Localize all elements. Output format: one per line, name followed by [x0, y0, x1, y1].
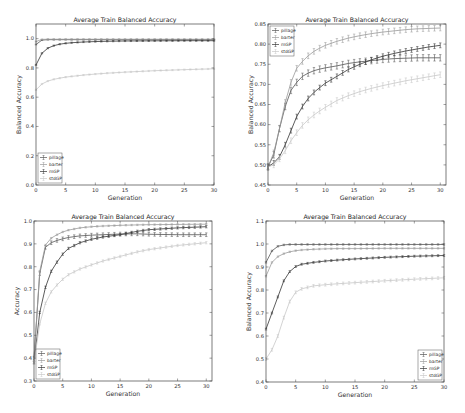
- x-tick-label: 5: [295, 187, 298, 193]
- x-tick-label: 0: [266, 187, 269, 193]
- legend-label-stdGP: stdGP: [47, 372, 60, 377]
- legend-label-mGP: mGP: [49, 169, 60, 174]
- legend-label-barter: barter: [429, 359, 443, 364]
- legend-label-pillage: pillage: [47, 351, 62, 356]
- x-axis-label: Generation: [106, 390, 141, 397]
- x-tick-label: 25: [174, 383, 181, 389]
- y-tick-label: 0.4: [24, 355, 33, 361]
- legend-label-stdGP: stdGP: [429, 373, 442, 378]
- x-tick-label: 20: [380, 187, 387, 193]
- x-tick-label: 10: [88, 383, 95, 389]
- y-tick-label: 1.0: [24, 218, 32, 224]
- series-pillage: [265, 244, 445, 263]
- y-axis-label: Balanced Accuracy: [245, 272, 253, 331]
- y-tick-label: 0.3: [24, 378, 32, 384]
- plot-frame: [36, 24, 214, 185]
- series-stdGP: [265, 276, 445, 360]
- y-tick-label: 0.0: [26, 182, 34, 188]
- legend-label-mGP: mGP: [281, 42, 292, 47]
- x-tick-label: 0: [32, 383, 35, 389]
- x-tick-label: 0: [264, 384, 267, 390]
- x-tick-label: 10: [92, 187, 99, 193]
- legend-label-barter: barter: [281, 35, 295, 40]
- series-barter: [33, 224, 208, 359]
- x-tick-label: 15: [352, 384, 359, 390]
- y-tick-label: 0.6: [26, 94, 34, 100]
- y-tick-label: 0.60: [254, 121, 266, 127]
- y-tick-label: 0.4: [256, 379, 265, 385]
- y-tick-label: 0.50: [254, 162, 266, 168]
- x-tick-label: 15: [117, 383, 124, 389]
- x-tick-label: 30: [441, 384, 448, 390]
- x-tick-label: 10: [322, 187, 329, 193]
- x-axis-label: Generation: [340, 194, 375, 201]
- y-tick-label: 0.7: [256, 310, 264, 316]
- x-tick-label: 25: [408, 187, 415, 193]
- chart-bottom-left: 0510152025300.30.40.50.60.70.80.91.0Aver…: [13, 213, 212, 398]
- y-tick-label: 0.5: [256, 356, 264, 362]
- x-tick-label: 30: [437, 187, 444, 193]
- legend-label-stdGP: stdGP: [49, 176, 62, 181]
- x-tick-label: 20: [381, 384, 388, 390]
- chart-top-left: 0510152025300.00.20.40.60.81.0Average Tr…: [15, 16, 217, 202]
- plot-frame: [268, 24, 446, 185]
- series-pillage: [33, 232, 208, 360]
- series-barter: [265, 248, 445, 277]
- chart-bottom-right: 0510152025300.40.50.60.70.80.91.01.1Aver…: [245, 213, 447, 399]
- y-tick-label: 1.0: [256, 241, 264, 247]
- legend-label-barter: barter: [49, 162, 63, 167]
- x-tick-label: 15: [351, 187, 358, 193]
- y-tick-label: 0.65: [254, 101, 266, 107]
- x-axis-label: Generation: [108, 194, 143, 201]
- series-mGP: [35, 40, 215, 65]
- y-tick-label: 0.75: [254, 61, 266, 67]
- y-tick-label: 0.70: [254, 81, 266, 87]
- x-tick-label: 10: [322, 384, 329, 390]
- series-mGP: [33, 226, 208, 364]
- y-tick-label: 0.5: [24, 332, 32, 338]
- x-tick-label: 20: [151, 187, 158, 193]
- legend: pillagebartermGPstdGP: [270, 26, 296, 56]
- y-axis-label: Accuracy: [13, 287, 21, 316]
- series-pillage: [267, 55, 442, 171]
- y-tick-label: 0.2: [26, 153, 34, 159]
- y-tick-label: 0.4: [26, 123, 35, 129]
- chart-top-right: 0510152025300.450.500.550.600.650.700.75…: [247, 16, 446, 202]
- x-tick-label: 30: [211, 187, 218, 193]
- x-tick-label: 5: [61, 383, 64, 389]
- y-tick-label: 0.85: [254, 21, 266, 27]
- x-tick-label: 20: [146, 383, 153, 389]
- legend: pillagebartermGPstdGP: [38, 153, 64, 183]
- y-tick-label: 1.0: [26, 35, 34, 41]
- x-tick-label: 25: [411, 384, 418, 390]
- y-tick-label: 0.9: [256, 264, 264, 270]
- legend: pillagebartermGPstdGP: [36, 349, 62, 379]
- x-tick-label: 5: [64, 187, 67, 193]
- x-tick-label: 25: [181, 187, 188, 193]
- legend-label-stdGP: stdGP: [281, 49, 294, 54]
- y-axis-label: Balanced Accuracy: [247, 75, 255, 134]
- chart-title: Average Train Balanced Accuracy: [305, 16, 408, 24]
- y-tick-label: 0.7: [24, 286, 32, 292]
- y-tick-label: 0.8: [24, 264, 32, 270]
- y-tick-label: 0.80: [254, 41, 266, 47]
- legend-label-mGP: mGP: [429, 366, 440, 371]
- chart-title: Average Train Balanced Accuracy: [303, 213, 406, 221]
- y-tick-label: 0.9: [24, 241, 32, 247]
- x-tick-label: 30: [203, 383, 210, 389]
- y-axis-label: Balanced Accuracy: [15, 75, 23, 134]
- figure-canvas: 0510152025300.00.20.40.60.81.0Average Tr…: [0, 0, 465, 413]
- y-tick-label: 0.6: [24, 309, 32, 315]
- series-mGP: [265, 255, 445, 330]
- chart-title: Average Train Balanced Accuracy: [73, 16, 176, 24]
- chart-title: Average Train Balanced Accuracy: [71, 213, 174, 221]
- legend-label-pillage: pillage: [281, 28, 296, 33]
- x-tick-label: 5: [294, 384, 297, 390]
- legend-label-barter: barter: [47, 358, 61, 363]
- y-tick-label: 0.8: [26, 65, 34, 71]
- y-tick-label: 0.55: [254, 142, 266, 148]
- y-tick-label: 1.1: [256, 218, 264, 224]
- legend: pillagebartermGPstdGP: [418, 350, 444, 380]
- x-tick-label: 0: [34, 187, 37, 193]
- y-tick-label: 0.45: [254, 182, 266, 188]
